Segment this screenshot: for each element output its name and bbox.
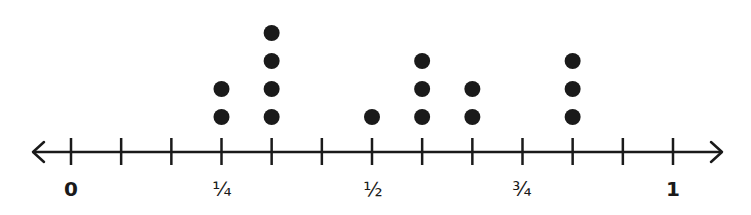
data-dot — [264, 81, 280, 97]
tick-label-half: ½ — [363, 177, 382, 201]
tick-labels: 0 ¼ ½ ¾ 1 — [64, 177, 680, 201]
data-dot — [565, 109, 581, 125]
tick-label-0: 0 — [64, 177, 78, 201]
number-line — [33, 142, 722, 162]
data-dot — [464, 81, 480, 97]
tick-label-quarter: ¼ — [212, 177, 231, 201]
data-dots — [214, 25, 581, 125]
data-dot — [264, 53, 280, 69]
data-dot — [565, 81, 581, 97]
dot-plot: 0 ¼ ½ ¾ 1 — [0, 0, 751, 215]
data-dot — [464, 109, 480, 125]
data-dot — [264, 109, 280, 125]
data-dot — [414, 81, 430, 97]
data-dot — [414, 109, 430, 125]
data-dot — [414, 53, 430, 69]
data-dot — [214, 81, 230, 97]
tick-label-1: 1 — [666, 177, 680, 201]
data-dot — [264, 25, 280, 41]
data-dot — [565, 53, 581, 69]
data-dot — [214, 109, 230, 125]
data-dot — [364, 109, 380, 125]
tick-label-three-quarters: ¾ — [512, 177, 531, 201]
